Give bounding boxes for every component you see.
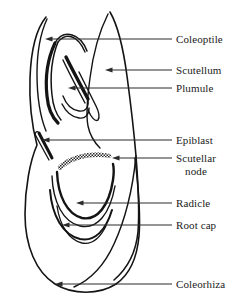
scutellum-inner-face: [87, 14, 108, 148]
label-coleoptile-line-1: Coleoptile: [176, 33, 223, 46]
label-coleorhiza: Coleorhiza: [176, 278, 225, 291]
arrow-head-coleoptile: [45, 36, 53, 41]
label-scutellum: Scutellum: [176, 64, 222, 77]
label-scutellum-line-1: Scutellum: [176, 64, 222, 77]
label-plumule: Plumule: [176, 82, 213, 95]
arrow-head-plumule: [68, 85, 76, 90]
scutellum-right-outline: [110, 12, 139, 280]
label-scutellar-node: Scutellarnode: [176, 152, 216, 177]
arrow-head-scutellum: [105, 67, 113, 72]
plumule-fold: [63, 96, 88, 111]
label-coleoptile: Coleoptile: [176, 33, 223, 46]
label-epiblast-line-1: Epiblast: [176, 134, 213, 147]
label-plumule-line-1: Plumule: [176, 82, 213, 95]
plumule-fold-lower: [62, 104, 89, 118]
scutellar-node-band: [58, 153, 112, 171]
label-root-cap-line-1: Root cap: [176, 219, 216, 232]
coleoptile-sheath-inner: [51, 42, 61, 120]
label-coleorhiza-line-1: Coleorhiza: [176, 278, 225, 291]
label-root-cap: Root cap: [176, 219, 216, 232]
coleorhiza-inner-sweep: [74, 156, 136, 287]
leader-lines-group: [42, 36, 172, 286]
label-scutellar-node-line-1: Scutellar: [176, 152, 216, 165]
label-radicle-line-1: Radicle: [176, 197, 210, 210]
plumule-blade-edge: [63, 60, 85, 103]
label-radicle: Radicle: [176, 197, 210, 210]
plumule-blade: [66, 57, 88, 99]
arrow-head-radicle: [76, 200, 84, 205]
seed-outline-group: [25, 12, 140, 292]
label-scutellar-node-line-2: node: [176, 165, 216, 178]
seed-diagram-figure: ColeoptileScutellumPlumuleEpiblastScutel…: [0, 0, 242, 307]
radicle-curve: [57, 164, 114, 218]
arrow-head-scutellar-node: [112, 155, 120, 160]
label-epiblast: Epiblast: [176, 134, 213, 147]
